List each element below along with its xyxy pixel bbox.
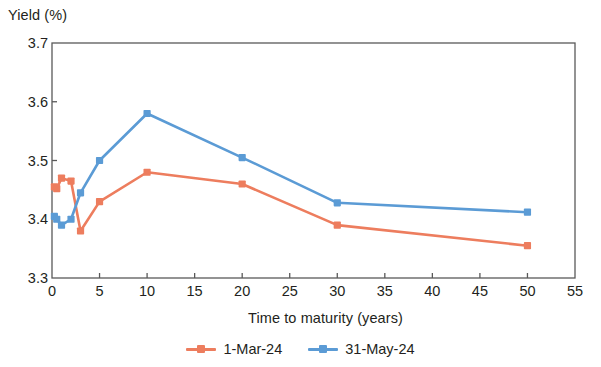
data-point-marker [77,189,84,196]
data-point-marker [524,242,531,249]
data-point-marker [53,185,60,192]
yield-curve-chart: Yield (%) 3.33.43.53.63.7 Time to maturi… [0,0,601,367]
data-point-marker [67,177,74,184]
x-axis-tick-label: 40 [412,283,452,299]
legend-swatch-series-0 [186,348,216,351]
data-point-marker [143,169,150,176]
data-point-marker [58,222,65,229]
data-point-marker [96,157,103,164]
x-axis-tick-label: 30 [317,283,357,299]
data-point-marker [334,199,341,206]
legend-item-series-0[interactable]: 1-Mar-24 [186,341,282,357]
legend-marker-icon-series-0 [197,345,205,353]
data-point-marker [96,198,103,205]
data-point-marker [143,110,150,117]
x-axis-tick-label: 20 [222,283,262,299]
data-point-marker [67,216,74,223]
x-axis-tick-label: 5 [80,283,120,299]
legend-marker-icon-series-1 [319,345,327,353]
data-point-marker [524,209,531,216]
x-axis-tick-label: 55 [555,283,595,299]
x-axis-tick-label: 0 [32,283,72,299]
legend-item-series-1[interactable]: 31-May-24 [308,341,414,357]
x-axis-tick-label: 50 [507,283,547,299]
x-axis-tick-label: 10 [127,283,167,299]
data-point-marker [239,154,246,161]
data-point-marker [77,227,84,234]
data-point-marker [334,222,341,229]
x-axis-tick-label: 15 [175,283,215,299]
x-axis-label: Time to maturity (years) [0,310,601,326]
legend-label-series-0: 1-Mar-24 [223,341,282,357]
chart-legend: 1-Mar-24 31-May-24 [0,341,601,357]
x-axis-tick-label: 25 [270,283,310,299]
x-axis-tick-label: 35 [365,283,405,299]
data-point-marker [58,175,65,182]
x-axis-tick-label: 45 [460,283,500,299]
data-point-marker [239,180,246,187]
legend-swatch-series-1 [308,348,338,351]
x-axis-label-text: Time to maturity (years) [198,310,403,326]
legend-label-series-1: 31-May-24 [345,341,414,357]
series-line-1 [54,114,527,226]
